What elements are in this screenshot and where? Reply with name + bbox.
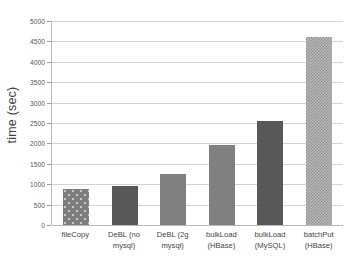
bar [63,189,89,225]
bar [306,37,332,225]
y-axis-tick-mark [47,225,51,226]
bar-slot [101,21,150,225]
bar-series [52,21,343,225]
bar-slot [246,21,295,225]
x-axis-tick-label: bulkLoad(MySQL) [246,229,295,251]
y-axis-tick-label: 3000 [30,99,45,106]
y-axis-tick-label: 2500 [30,120,45,127]
x-axis-tick-label: batchPut(HBase) [294,229,343,251]
bar-slot [295,21,344,225]
x-axis-tick-labels: fileCopyDeBL (nomysql)DeBL (2gmysql)bulk… [51,229,343,251]
y-axis-tick-label: 4000 [30,58,45,65]
y-axis-tick-labels: 5000450040003500300025002000150010005000 [20,21,48,225]
gridline [52,225,343,226]
x-axis-tick-label: DeBL (2gmysql) [148,229,197,251]
bar [257,121,283,225]
plot-area [51,21,343,225]
bar-chart: time (sec) 50004500400035003000250020001… [0,0,351,270]
x-axis-tick-label: fileCopy [51,229,100,251]
y-axis-title-text: time (sec) [5,87,19,144]
y-axis-tick-label: 500 [34,201,45,208]
bar-slot [198,21,247,225]
x-axis-tick-label: DeBL (nomysql) [100,229,149,251]
y-axis-tick-label: 1000 [30,181,45,188]
bar [112,186,138,225]
x-axis-tick-label: bulkLoad(HBase) [197,229,246,251]
bar [160,174,186,225]
bar-slot [149,21,198,225]
y-axis-tick-label: 5000 [30,18,45,25]
y-axis-tick-label: 3500 [30,79,45,86]
bar [209,145,235,225]
y-axis-title: time (sec) [2,0,22,230]
y-axis-tick-label: 1500 [30,160,45,167]
bar-slot [52,21,101,225]
y-axis-tick-label: 2000 [30,140,45,147]
y-axis-tick-label: 4500 [30,38,45,45]
